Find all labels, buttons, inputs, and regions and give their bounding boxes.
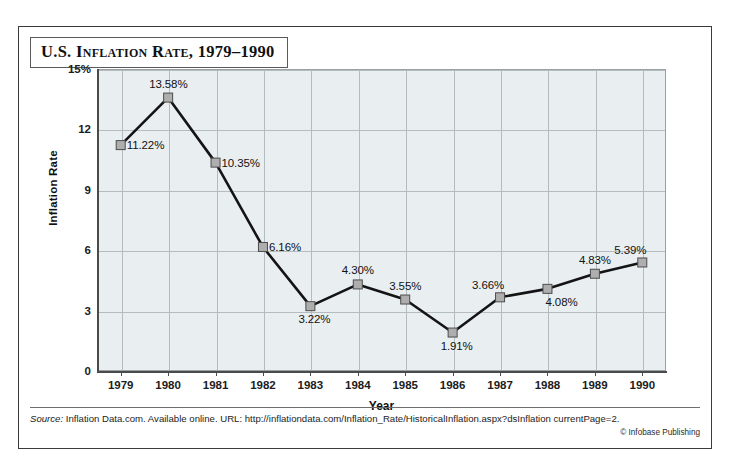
data-point-label: 5.39% — [614, 244, 646, 256]
data-point-marker — [258, 242, 267, 251]
x-axis-tick-mark — [547, 371, 548, 376]
x-axis-tick-mark — [642, 371, 643, 376]
y-axis-tick-label: 12 — [78, 123, 91, 135]
series-inflation-rate — [97, 69, 666, 371]
y-axis-tick-label: 3 — [85, 305, 91, 317]
copyright-notice: © Infobase Publishing — [620, 428, 700, 437]
y-axis-tick-label: 15% — [68, 63, 91, 75]
x-axis-tick-mark — [121, 371, 122, 376]
x-axis-tick-mark — [358, 371, 359, 376]
data-point-label: 4.30% — [342, 264, 374, 276]
data-point-marker — [590, 269, 599, 278]
data-point-label: 4.08% — [545, 296, 577, 308]
x-axis-tick-mark — [263, 371, 264, 376]
source-line: Source: Inflation Data.com. Available on… — [30, 413, 700, 424]
data-point-label: 3.55% — [389, 280, 421, 292]
x-axis-tick-mark — [595, 371, 596, 376]
data-point-label: 3.66% — [472, 279, 504, 291]
x-axis-tick-mark — [168, 371, 169, 376]
y-axis-tick-label: 6 — [85, 244, 91, 256]
x-axis-tick-label: 1983 — [298, 379, 324, 391]
data-point-label: 13.58% — [149, 78, 187, 90]
data-point-marker — [164, 93, 173, 102]
data-point-marker — [211, 158, 220, 167]
y-axis-title: Inflation Rate — [47, 128, 59, 248]
x-axis-tick-mark — [453, 371, 454, 376]
x-axis-tick-label: 1987 — [487, 379, 513, 391]
x-axis-tick-label: 1981 — [203, 379, 229, 391]
x-axis-tick-label: 1985 — [392, 379, 418, 391]
x-axis-tick-label: 1990 — [629, 379, 655, 391]
data-point-label: 6.16% — [269, 241, 301, 253]
x-axis-tick-mark — [310, 371, 311, 376]
x-axis-tick-mark — [500, 371, 501, 376]
x-axis-tick-mark — [405, 371, 406, 376]
data-point-marker — [353, 280, 362, 289]
source-bar: Source: Inflation Data.com. Available on… — [30, 413, 700, 443]
x-axis-line — [97, 371, 667, 373]
data-point-marker — [116, 141, 125, 150]
x-axis-tick-label: 1980 — [155, 379, 181, 391]
x-axis-tick-label: 1988 — [535, 379, 561, 391]
x-axis-tick-label: 1986 — [440, 379, 466, 391]
data-point-marker — [496, 293, 505, 302]
x-axis-tick-mark — [216, 371, 217, 376]
data-point-label: 1.91% — [441, 340, 473, 352]
x-axis-tick-label: 1982 — [250, 379, 276, 391]
data-point-label: 10.35% — [222, 157, 260, 169]
data-point-marker — [543, 284, 552, 293]
y-axis-tick-label: 0 — [85, 365, 91, 377]
x-axis-title: Year — [97, 399, 666, 413]
chart-canvas: 03691215% Inflation Rate Year 1979198019… — [19, 27, 713, 450]
source-label: Source: — [30, 413, 63, 424]
data-point-marker — [638, 258, 647, 267]
data-point-marker — [448, 328, 457, 337]
data-point-marker — [306, 302, 315, 311]
figure-frame: U.S. Inflation Rate, 1979–1990 03691215%… — [18, 26, 712, 449]
data-point-label: 11.22% — [127, 139, 165, 151]
data-point-label: 3.22% — [298, 313, 330, 325]
data-point-label: 4.83% — [579, 254, 611, 266]
x-axis-tick-label: 1989 — [582, 379, 608, 391]
data-point-marker — [401, 295, 410, 304]
x-axis-tick-label: 1984 — [345, 379, 371, 391]
x-axis-tick-label: 1979 — [108, 379, 134, 391]
source-text: Inflation Data.com. Available online. UR… — [63, 413, 619, 424]
y-axis-tick-label: 9 — [85, 184, 91, 196]
footer-divider — [30, 407, 700, 408]
